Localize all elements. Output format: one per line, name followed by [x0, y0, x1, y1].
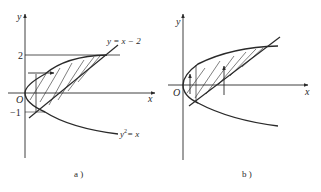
panel-a: y x O 2 −1 y = x − 2 y2= x a )	[8, 11, 155, 179]
parabola-equation-label: y2= x	[119, 128, 139, 139]
origin-label-a: O	[16, 94, 23, 105]
y-axis-label-a: y	[16, 11, 22, 22]
x-axis-label-a: x	[147, 93, 153, 104]
caption-b: b )	[242, 169, 252, 179]
caption-a: a )	[74, 169, 83, 179]
svg-text:y2= x: y2= x	[119, 128, 139, 139]
origin-label-b: O	[173, 87, 180, 98]
line-y-x-minus-2	[29, 45, 118, 118]
line-equation-label: y = x − 2	[106, 36, 141, 46]
hatch-region-b	[187, 48, 263, 98]
parabola-curve-a	[25, 55, 118, 134]
panel-b: y x O b )	[168, 14, 310, 179]
tick-label-minus-1: −1	[10, 107, 21, 118]
tick-label-2: 2	[18, 50, 23, 61]
y-axis-label-b: y	[175, 16, 181, 27]
figure-canvas: y x O 2 −1 y = x − 2 y2= x a )	[0, 0, 321, 192]
x-axis-label-b: x	[304, 86, 310, 97]
parabola-curve-b	[183, 46, 278, 126]
